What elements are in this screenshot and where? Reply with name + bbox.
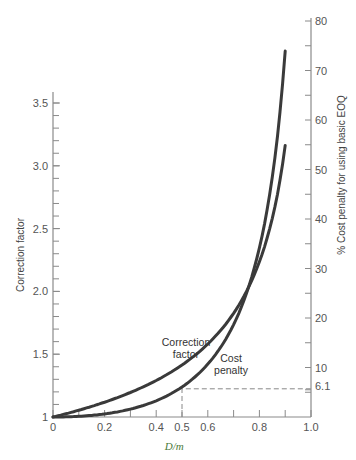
cost-penalty-curve xyxy=(53,51,285,417)
left-tick-label: 2.5 xyxy=(33,223,48,235)
x-axis-title: D/m xyxy=(164,440,184,452)
axes: 11.52.02.53.03.510203040506070806.100.20… xyxy=(33,15,331,433)
correction-factor-annotation: factor xyxy=(173,348,200,360)
right-tick-label: 10 xyxy=(315,362,327,374)
left-axis-title: Correction factor xyxy=(15,217,26,292)
series xyxy=(53,51,311,417)
x-tick-label: 0.8 xyxy=(252,421,267,433)
x-tick-label: 1.0 xyxy=(303,421,318,433)
cost-penalty-annotation: Cost xyxy=(220,352,242,364)
left-tick-label: 2.0 xyxy=(33,285,48,297)
reference-dashed-line xyxy=(182,389,311,417)
right-tick-label: 70 xyxy=(315,65,327,77)
x-tick-label: 0.5 xyxy=(174,421,189,433)
right-tick-label: 50 xyxy=(315,164,327,176)
x-tick-label: 0.6 xyxy=(200,421,215,433)
cost-penalty-annotation: penalty xyxy=(214,364,249,376)
eoq-correction-chart: 11.52.02.53.03.510203040506070806.100.20… xyxy=(0,0,356,460)
right-tick-label: 60 xyxy=(315,114,327,126)
right-axis-title: % Cost penalty for using basic EOQ xyxy=(336,95,347,255)
left-tick-label: 3.0 xyxy=(33,160,48,172)
right-tick-label: 80 xyxy=(315,15,327,27)
left-tick-label: 1 xyxy=(42,411,48,423)
x-tick-label: 0 xyxy=(50,421,56,433)
right-tick-label: 40 xyxy=(315,213,327,225)
left-tick-label: 3.5 xyxy=(33,97,48,109)
left-tick-label: 1.5 xyxy=(33,348,48,360)
correction-factor-annotation: Correction xyxy=(162,336,211,348)
labels: Correction factor% Cost penalty for usin… xyxy=(15,95,347,452)
right-tick-label: 30 xyxy=(315,263,327,275)
right-tick-label: 20 xyxy=(315,312,327,324)
x-tick-label: 0.2 xyxy=(97,421,112,433)
right-special-tick-label: 6.1 xyxy=(315,380,330,392)
x-tick-label: 0.4 xyxy=(149,421,164,433)
